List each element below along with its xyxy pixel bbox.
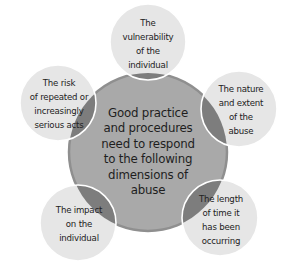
center-line: dimensions of [101,168,195,184]
node-label-bottom-left: The impact on the individual [44,200,114,248]
center-line: and procedures [101,121,195,137]
node-line: of the [123,44,174,58]
node-line: on the [56,217,102,231]
node-line: The length [199,192,243,206]
node-line: occurring [199,234,243,248]
center-line: abuse [101,183,195,199]
node-line: abuse [219,124,264,138]
center-line: Good practice [101,106,195,122]
node-line: serious acts [30,118,89,132]
node-line: of time it [199,206,243,220]
node-line: vulnerability [123,30,174,44]
node-line: increasingly [30,104,89,118]
node-label-right: The nature and extent of the abuse [206,80,276,140]
center-label: Good practice and procedures need to res… [88,100,208,204]
node-line: The [123,16,174,30]
node-line: has been [199,220,243,234]
node-line: individual [56,231,102,245]
node-line: and extent [219,96,264,110]
node-line: The impact [56,203,102,217]
center-line: need to respond [101,137,195,153]
node-line: The nature [219,82,264,96]
node-line: individual [123,58,174,72]
center-line: to the following [101,152,195,168]
node-line: of repeated or [30,90,89,104]
node-label-bottom-right: The length of time it has been occurring [186,190,256,250]
node-label-left: The risk of repeated or increasingly ser… [20,74,98,134]
node-line: The risk [30,76,89,90]
node-line: of the [219,110,264,124]
node-label-top: The vulnerability of the individual [108,14,188,74]
